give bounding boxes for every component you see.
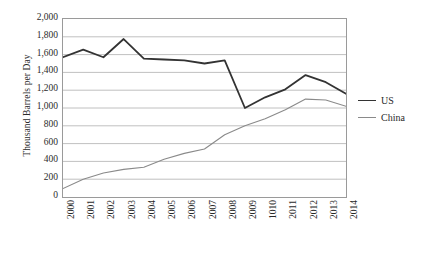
- x-axis-tick-label: 2007: [208, 200, 218, 236]
- y-axis-tick-label: 200: [24, 173, 58, 183]
- gridlines: [63, 37, 346, 179]
- x-axis-tick-label: 2014: [349, 200, 359, 236]
- y-axis-tick-label: 0: [24, 191, 58, 201]
- legend-item-us[interactable]: US: [358, 92, 434, 109]
- y-axis-tick-label: 1,000: [24, 102, 58, 112]
- y-axis-tick-label: 600: [24, 138, 58, 148]
- x-axis-tick-label: 2005: [167, 200, 177, 236]
- data-series-group: [63, 39, 346, 189]
- line-chart: Thousand Barrels per Day 2,0001,8001,600…: [0, 0, 434, 258]
- y-axis-tick-label: 1,600: [24, 49, 58, 59]
- x-axis-tick-label: 2000: [66, 200, 76, 236]
- plot-area: [62, 18, 347, 198]
- y-axis-tick-label: 1,800: [24, 31, 58, 41]
- legend-line-swatch-icon: [358, 117, 376, 118]
- x-axis-tick-label: 2002: [106, 200, 116, 236]
- legend-line-swatch-icon: [358, 100, 376, 101]
- x-axis-tick-labels: 2000200120022003200420052006200720082009…: [62, 198, 347, 258]
- x-axis-tick-label: 1010: [268, 200, 278, 236]
- x-axis-tick-label: 2011: [288, 200, 298, 236]
- y-axis-tick-label: 1,200: [24, 84, 58, 94]
- x-axis-tick-label: 2003: [127, 200, 137, 236]
- x-axis-tick-label: 2004: [147, 200, 157, 236]
- y-axis-tick-labels: 2,0001,8001,6001,4001,2001,0008006004002…: [22, 0, 58, 258]
- y-axis-tick-label: 2,000: [24, 13, 58, 23]
- x-axis-tick-label: 2001: [86, 200, 96, 236]
- legend-item-label: US: [381, 96, 394, 106]
- x-axis-tick-label: 2012: [309, 200, 319, 236]
- y-axis-tick-label: 1,400: [24, 66, 58, 76]
- series-line-us: [63, 39, 346, 108]
- x-axis-tick-label: 2013: [329, 200, 339, 236]
- legend-item-label: China: [381, 113, 405, 123]
- legend: USChina: [358, 92, 434, 126]
- y-axis-tick-label: 400: [24, 155, 58, 165]
- x-axis-tick-label: 2008: [228, 200, 238, 236]
- legend-item-china[interactable]: China: [358, 109, 434, 126]
- x-axis-tick-label: 2006: [187, 200, 197, 236]
- x-axis-tick-label: 2009: [248, 200, 258, 236]
- y-axis-tick-label: 800: [24, 120, 58, 130]
- plot-svg: [63, 19, 346, 197]
